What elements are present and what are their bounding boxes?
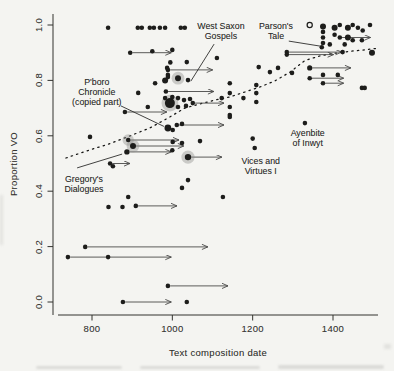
data-point xyxy=(130,143,136,149)
data-point xyxy=(345,35,351,41)
data-point xyxy=(268,70,273,75)
data-point xyxy=(276,66,281,71)
data-point xyxy=(185,300,190,305)
data-point xyxy=(163,26,168,31)
annotation-leader-line xyxy=(191,44,214,81)
data-point xyxy=(191,101,196,106)
data-point xyxy=(256,65,261,70)
data-point xyxy=(254,83,259,88)
data-point xyxy=(307,65,312,70)
data-point xyxy=(124,149,129,154)
data-point xyxy=(369,50,375,56)
data-point xyxy=(320,45,325,50)
data-point xyxy=(153,81,158,86)
data-point xyxy=(215,56,220,61)
data-point xyxy=(170,128,175,133)
data-point xyxy=(179,26,184,31)
data-point xyxy=(158,26,163,31)
data-point xyxy=(285,52,290,57)
data-point xyxy=(180,186,185,191)
data-point xyxy=(140,26,145,31)
x-axis-title: Text composition date xyxy=(169,347,267,358)
annotation-west-saxon-gospels: West SaxonGospels xyxy=(197,22,244,42)
data-point xyxy=(166,68,171,73)
data-point xyxy=(180,122,185,127)
x-tick-label: 1200 xyxy=(231,323,275,334)
data-point xyxy=(176,105,181,110)
data-point xyxy=(332,25,338,31)
annotation-leader-line xyxy=(289,41,320,46)
y-axis-title: Proportion VO xyxy=(8,132,19,196)
y-tick-label: 0.8 xyxy=(33,65,44,95)
data-point xyxy=(163,96,168,101)
data-point xyxy=(146,105,151,110)
annotation-line: Tale xyxy=(259,32,293,42)
scan-edge-smudge xyxy=(0,195,3,245)
annotation-line: Dialogues xyxy=(64,185,103,195)
data-point xyxy=(350,23,355,28)
data-point xyxy=(345,25,351,31)
y-tick-label: 0.0 xyxy=(33,287,44,317)
annotation-line: Gospels xyxy=(197,32,244,42)
data-point xyxy=(198,139,203,144)
data-point xyxy=(111,164,116,169)
data-point xyxy=(126,138,131,143)
data-point xyxy=(123,110,128,115)
y-tick-label: 1.0 xyxy=(33,10,44,40)
data-point xyxy=(165,125,172,132)
data-point xyxy=(228,91,233,96)
data-point xyxy=(360,38,365,43)
plot-canvas xyxy=(0,0,394,371)
data-point xyxy=(228,105,233,110)
x-tick-label: 1400 xyxy=(311,323,355,334)
annotation-leader-line xyxy=(77,154,122,168)
y-tick-label: 0.2 xyxy=(33,232,44,262)
data-point xyxy=(150,49,155,54)
x-tick-label: 800 xyxy=(70,323,114,334)
y-tick-label: 0.4 xyxy=(33,176,44,206)
data-point xyxy=(321,41,326,46)
data-point xyxy=(338,35,343,40)
data-point xyxy=(321,81,326,86)
scatter-plot-figure: Text composition date Proportion VO 8001… xyxy=(0,0,394,371)
data-point xyxy=(321,73,326,78)
data-point xyxy=(186,78,191,83)
data-point xyxy=(88,135,93,140)
data-point xyxy=(148,26,153,31)
data-point xyxy=(128,50,133,55)
data-point xyxy=(254,91,259,96)
data-point xyxy=(321,35,326,40)
data-point xyxy=(170,95,175,100)
data-point xyxy=(152,26,157,31)
annotation-line: Virtues I xyxy=(241,167,279,177)
scan-edge-smudge xyxy=(384,344,391,349)
annotation-leader-line xyxy=(121,106,164,127)
data-point xyxy=(185,60,190,65)
data-point xyxy=(185,154,191,160)
data-point xyxy=(350,38,355,43)
data-point xyxy=(219,96,224,101)
annotation-vices-and-virtues-i: Vices andVirtues I xyxy=(241,157,279,177)
data-point xyxy=(342,42,347,47)
data-point xyxy=(368,23,373,28)
data-point xyxy=(134,204,139,209)
data-point xyxy=(164,89,169,94)
data-point xyxy=(170,48,175,53)
data-point xyxy=(338,23,343,28)
data-point xyxy=(221,195,226,200)
data-point xyxy=(186,178,191,183)
annotation-pboro-chronicle: P'boroChronicle(copied part) xyxy=(72,78,121,107)
cropped-caption-fragment xyxy=(36,366,122,369)
data-point xyxy=(356,26,361,31)
data-point xyxy=(168,60,173,65)
data-point xyxy=(228,115,233,120)
data-point xyxy=(184,104,189,109)
data-point xyxy=(307,22,312,27)
data-point xyxy=(254,100,259,105)
data-point xyxy=(126,195,131,200)
data-point xyxy=(336,73,341,78)
data-point xyxy=(83,245,88,250)
data-point xyxy=(303,121,308,126)
data-point xyxy=(332,32,337,37)
data-point xyxy=(120,205,125,210)
